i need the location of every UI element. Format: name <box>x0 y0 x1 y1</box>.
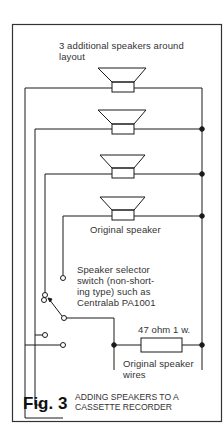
resistor-icon <box>141 338 182 352</box>
speaker-icon <box>100 155 145 178</box>
resistor-label: 47 ohm 1 w. <box>138 324 190 335</box>
switch-label: Speaker selector switch (non-short- ing … <box>77 264 156 308</box>
original-speaker-icon <box>100 197 145 220</box>
junction-dot <box>200 214 205 219</box>
speaker-wires-label: Original speaker wires <box>123 358 194 380</box>
original-speaker-label: Original speaker <box>90 224 161 235</box>
figure-number: Fig. 3 <box>23 394 67 414</box>
additional-speakers-label: 3 additional speakers around layout <box>59 40 184 62</box>
junction-dot <box>200 127 205 132</box>
speaker-icon <box>98 110 146 134</box>
junction-dot <box>200 172 205 177</box>
junction-dot <box>200 343 205 348</box>
figure-caption: ADDING SPEAKERS TO A CASSETTE RECORDER <box>75 393 179 412</box>
selector-switch <box>42 274 67 348</box>
